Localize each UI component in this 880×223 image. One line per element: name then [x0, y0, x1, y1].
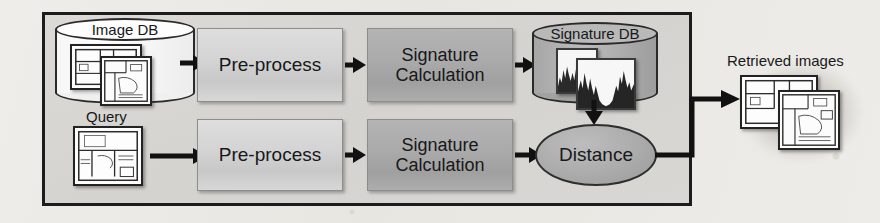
query-thumbnail	[73, 126, 143, 186]
distance-ellipse[interactable]: Distance	[535, 124, 657, 186]
signature-top-line1: Signature	[401, 45, 478, 65]
preprocess-top-box[interactable]: Pre-process	[197, 28, 343, 102]
signature-calculation-bottom-box[interactable]: Signature Calculation	[367, 119, 513, 191]
preprocess-bottom-label: Pre-process	[219, 144, 321, 165]
arrow-preprocess-to-signature-bottom	[345, 146, 367, 164]
signature-calculation-bottom-label: Signature Calculation	[395, 135, 484, 175]
retrieved-image-2	[778, 90, 840, 150]
signature-bottom-line2: Calculation	[395, 155, 484, 175]
image-db-thumbnail-2	[100, 56, 152, 106]
arrow-preprocess-to-signature-top	[345, 56, 367, 74]
arrow-distance-to-retrieved	[652, 88, 742, 170]
image-db-label: Image DB	[55, 21, 195, 38]
signature-bottom-line1: Signature	[401, 135, 478, 155]
signature-db-label: Signature DB	[532, 25, 658, 42]
arrow-signaturedb-to-distance	[584, 100, 604, 126]
signature-calculation-top-box[interactable]: Signature Calculation	[367, 28, 513, 102]
signature-calculation-top-label: Signature Calculation	[395, 45, 484, 85]
preprocess-top-label: Pre-process	[219, 54, 321, 75]
retrieved-images-label: Retrieved images	[727, 52, 844, 69]
preprocess-bottom-box[interactable]: Pre-process	[197, 119, 343, 191]
query-label: Query	[86, 108, 127, 125]
diagram-canvas: Image DB Query	[0, 0, 880, 223]
signature-top-line2: Calculation	[395, 65, 484, 85]
distance-label: Distance	[559, 144, 633, 166]
